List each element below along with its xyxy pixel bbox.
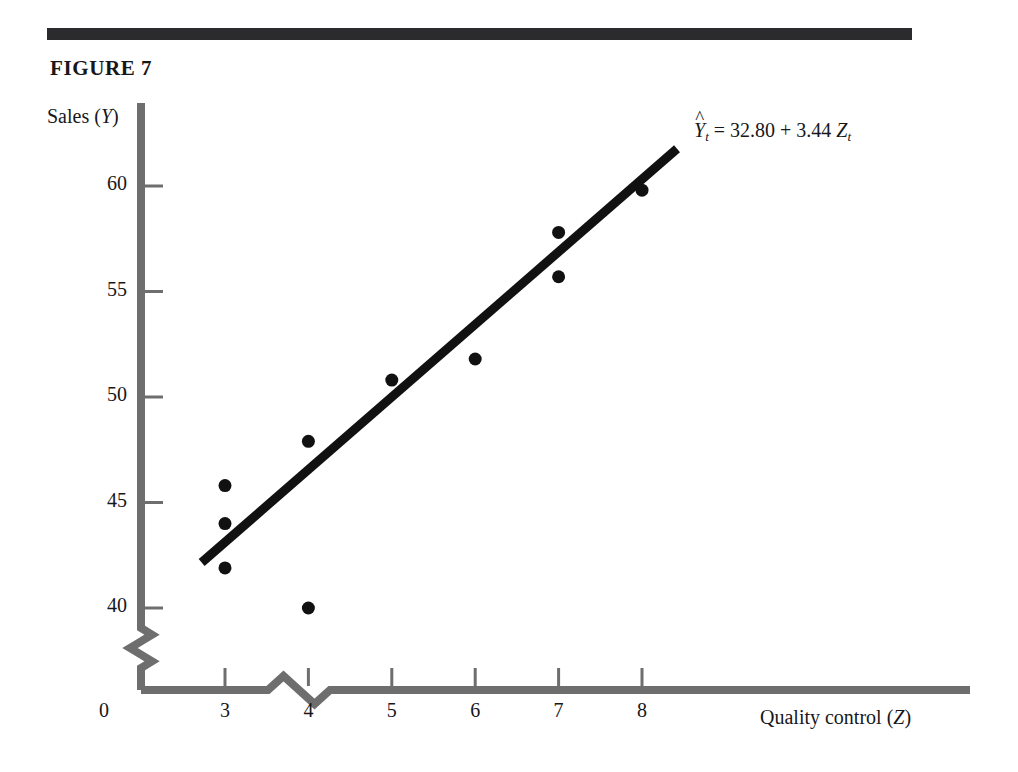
regression-fit-line bbox=[202, 149, 677, 563]
data-point bbox=[302, 602, 315, 615]
x-tick-label-6: 6 bbox=[455, 699, 495, 722]
data-point bbox=[219, 479, 232, 492]
data-point bbox=[636, 184, 649, 197]
data-point bbox=[385, 374, 398, 387]
x-tick-label-4: 4 bbox=[288, 699, 328, 722]
x-tick-label-5: 5 bbox=[372, 699, 412, 722]
data-point bbox=[552, 270, 565, 283]
data-point bbox=[219, 561, 232, 574]
data-point bbox=[469, 353, 482, 366]
y-tick-label-45: 45 bbox=[81, 489, 127, 512]
y-tick-label-60: 60 bbox=[81, 172, 127, 195]
y-axis-tick-marks bbox=[145, 186, 163, 608]
fit-line-segment bbox=[202, 149, 677, 563]
axis-lines bbox=[130, 103, 970, 704]
x-tick-label-8: 8 bbox=[622, 699, 662, 722]
data-point-markers bbox=[219, 184, 649, 615]
y-tick-label-50: 50 bbox=[81, 383, 127, 406]
data-point bbox=[552, 226, 565, 239]
y-tick-label-40: 40 bbox=[81, 594, 127, 617]
scatter-plot-canvas bbox=[0, 0, 1018, 772]
figure-root: FIGURE 7 Sales (Y) Quality control (Z) 0… bbox=[0, 0, 1018, 772]
y-tick-label-55: 55 bbox=[81, 278, 127, 301]
x-tick-label-3: 3 bbox=[205, 699, 245, 722]
data-point bbox=[302, 435, 315, 448]
x-tick-label-7: 7 bbox=[539, 699, 579, 722]
data-point bbox=[219, 517, 232, 530]
